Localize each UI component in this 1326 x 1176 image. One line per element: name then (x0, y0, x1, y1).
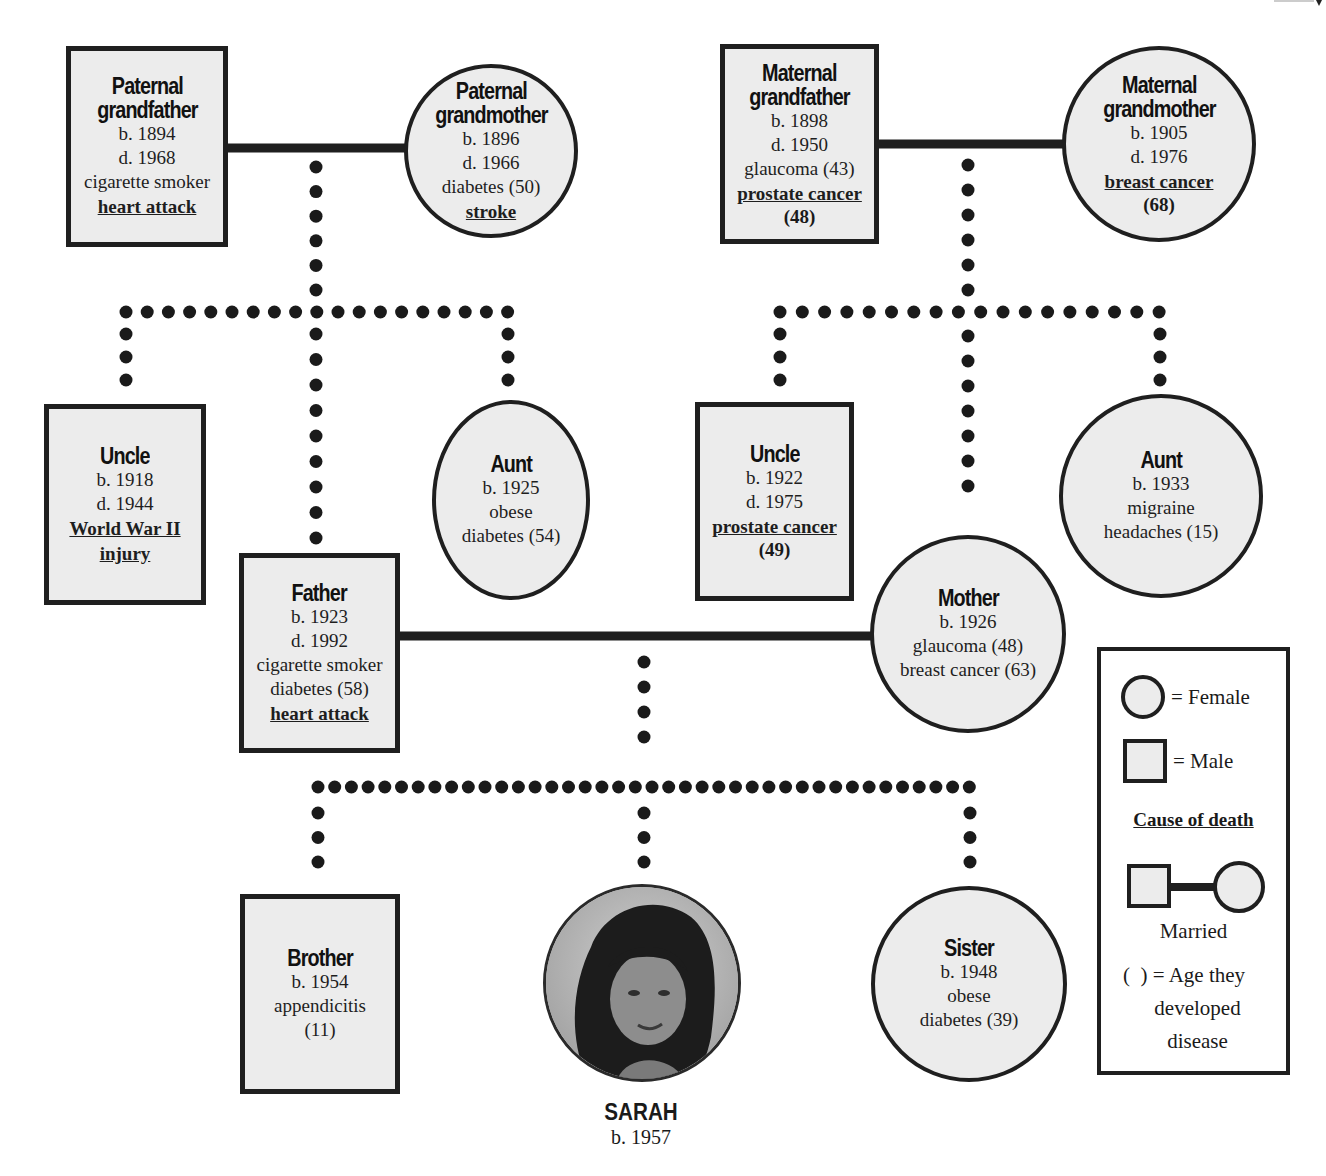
health-note: diabetes (39) (920, 1008, 1019, 1032)
node-title: grandfather (97, 98, 197, 122)
death-date: d. 1992 (291, 629, 348, 653)
maternal-uncle-node: Uncle b. 1922 d. 1975 prostate cancer (4… (695, 402, 854, 601)
born-date: b. 1948 (941, 960, 998, 984)
node-title: Sister (944, 936, 994, 960)
health-note: obese (947, 984, 990, 1008)
born-date: b. 1933 (1133, 472, 1190, 496)
maternal-grandmother-node: Maternal grandmother b. 1905 d. 1976 bre… (1062, 46, 1256, 242)
born-date: b. 1918 (97, 468, 154, 492)
cause-of-death: heart attack (270, 701, 369, 726)
maternal-grandfather-node: Maternal grandfather b. 1898 d. 1950 gla… (720, 44, 879, 244)
sarah-born-date: b. 1957 (541, 1126, 741, 1149)
health-note: breast cancer (63) (900, 658, 1036, 682)
health-note: (11) (305, 1018, 336, 1042)
node-title: Paternal (455, 79, 526, 103)
death-date: d. 1944 (97, 492, 154, 516)
legend-cause-of-death: Cause of death (1101, 809, 1286, 831)
node-title: Aunt (1140, 448, 1182, 472)
legend-age-label-2: developed (1101, 996, 1286, 1021)
born-date: b. 1954 (292, 970, 349, 994)
born-date: b. 1905 (1131, 121, 1188, 145)
node-title: Maternal (1122, 73, 1196, 97)
cause-of-death: prostate cancer (737, 181, 862, 206)
death-date: d. 1968 (119, 146, 176, 170)
node-title: grandmother (1103, 97, 1216, 121)
cause-of-death-age: (48) (784, 206, 816, 228)
health-note: diabetes (54) (462, 524, 561, 548)
legend-female-label: = Female (1171, 685, 1250, 710)
portrait-photo-icon (546, 887, 741, 1082)
mother-node: Mother b. 1926 glaucoma (48) breast canc… (870, 535, 1066, 733)
legend-box: = Female = Male Cause of death Married (… (1097, 647, 1290, 1075)
male-square-icon (1123, 739, 1167, 783)
paternal-grandfather-node: Paternal grandfather b. 1894 d. 1968 cig… (66, 46, 228, 247)
legend-male-label: = Male (1173, 749, 1233, 774)
health-note: diabetes (58) (270, 677, 369, 701)
brother-node: Brother b. 1954 appendicitis (11) (240, 894, 400, 1094)
node-title: Mother (938, 586, 999, 610)
born-date: b. 1925 (483, 476, 540, 500)
cause-of-death-age: (49) (759, 539, 791, 561)
node-title: Brother (287, 946, 352, 970)
born-date: b. 1923 (291, 605, 348, 629)
death-date: d. 1975 (746, 490, 803, 514)
cropped-text-fragment (1264, 0, 1324, 8)
node-title: Uncle (750, 442, 800, 466)
health-note: glaucoma (48) (913, 634, 1023, 658)
sarah-portrait-photo (543, 884, 741, 1082)
death-date: d. 1966 (463, 151, 520, 175)
cause-of-death: breast cancer (1105, 169, 1214, 194)
cause-of-death: injury (100, 541, 151, 566)
health-note: cigarette smoker (256, 653, 382, 677)
health-note: diabetes (50) (442, 175, 541, 199)
legend-female-row: = Female (1121, 675, 1250, 719)
legend-age-label: ( ) = Age they (1123, 963, 1245, 988)
health-note: obese (489, 500, 532, 524)
node-title: Uncle (100, 444, 150, 468)
node-title: Father (292, 581, 347, 605)
sister-node: Sister b. 1948 obese diabetes (39) (871, 886, 1067, 1082)
health-note: migraine (1127, 496, 1195, 520)
paternal-grandmother-node: Paternal grandmother b. 1896 d. 1966 dia… (404, 64, 578, 238)
health-note: cigarette smoker (84, 170, 210, 194)
cause-of-death-age: (68) (1143, 194, 1175, 216)
legend-age-label-3: disease (1101, 1029, 1286, 1054)
cause-of-death: prostate cancer (712, 514, 837, 539)
father-node: Father b. 1923 d. 1992 cigarette smoker … (239, 553, 400, 753)
health-note: headaches (15) (1104, 520, 1218, 544)
maternal-aunt-node: Aunt b. 1933 migraine headaches (15) (1059, 394, 1263, 598)
born-date: b. 1894 (119, 122, 176, 146)
death-date: d. 1950 (771, 133, 828, 157)
node-title: Maternal (762, 61, 836, 85)
node-title: Paternal (111, 74, 182, 98)
node-title: grandfather (749, 85, 849, 109)
node-title: grandmother (435, 103, 548, 127)
born-date: b. 1922 (746, 466, 803, 490)
born-date: b. 1898 (771, 109, 828, 133)
legend-male-row: = Male (1123, 739, 1233, 783)
born-date: b. 1896 (463, 127, 520, 151)
sarah-name-label: SARAH (555, 1098, 727, 1126)
legend-married-icon (1127, 861, 1272, 911)
paternal-uncle-node: Uncle b. 1918 d. 1944 World War II injur… (44, 404, 206, 605)
female-circle-icon (1121, 675, 1165, 719)
node-title: Aunt (490, 452, 532, 476)
health-note: glaucoma (43) (744, 157, 854, 181)
death-date: d. 1976 (1131, 145, 1188, 169)
born-date: b. 1926 (940, 610, 997, 634)
health-note: appendicitis (274, 994, 366, 1018)
legend-married-label: Married (1101, 919, 1286, 944)
cause-of-death: World War II (69, 516, 180, 541)
cause-of-death: stroke (466, 199, 516, 224)
paternal-aunt-node: Aunt b. 1925 obese diabetes (54) (432, 400, 590, 600)
cause-of-death: heart attack (98, 194, 197, 219)
